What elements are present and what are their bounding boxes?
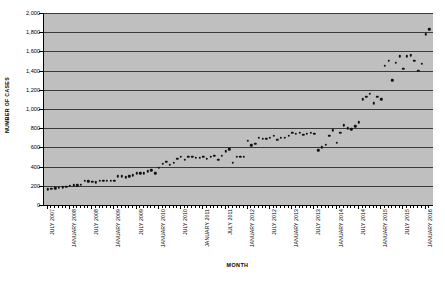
x-axis-tickmark	[406, 205, 407, 208]
x-axis-tick-label: JANUARY 2009	[115, 209, 121, 247]
data-point	[128, 175, 130, 177]
data-point	[324, 143, 326, 145]
data-point	[243, 156, 245, 158]
y-axis-tick-label: 1,800	[12, 29, 40, 35]
x-axis-tickmark	[228, 205, 229, 208]
x-axis-tickmark	[295, 205, 296, 208]
x-axis-tickmark	[165, 205, 166, 208]
data-point	[335, 141, 337, 143]
x-axis-tick-label: JANUARY 2010	[160, 209, 166, 247]
data-point	[250, 144, 252, 146]
data-point	[172, 162, 174, 164]
data-point	[332, 129, 334, 131]
data-point	[210, 156, 212, 158]
y-axis-tickmark	[39, 147, 43, 148]
x-axis-tick-label: JULY 2008	[93, 209, 99, 235]
x-axis-tickmark	[395, 205, 396, 208]
x-axis-tickmark	[102, 205, 103, 208]
x-axis-tickmark	[143, 205, 144, 208]
x-axis-tickmark	[217, 205, 218, 208]
x-axis-tickmark	[191, 205, 192, 208]
x-axis-tickmark	[258, 205, 259, 208]
data-point	[58, 187, 60, 189]
data-point	[102, 180, 104, 182]
x-axis-tickmark	[343, 205, 344, 208]
y-axis-tickmark	[39, 128, 43, 129]
x-axis-tickmark	[117, 205, 118, 208]
data-point	[384, 65, 386, 67]
data-point	[272, 135, 274, 137]
x-axis-tickmark	[384, 205, 385, 208]
data-point	[265, 138, 267, 140]
x-axis-tickmark	[273, 205, 274, 208]
data-point	[313, 133, 315, 135]
data-point	[258, 137, 260, 139]
x-axis-tickmark	[95, 205, 96, 208]
gridline	[44, 13, 433, 14]
data-point	[180, 156, 182, 158]
data-point	[169, 163, 171, 165]
data-point	[298, 132, 300, 134]
data-point	[361, 98, 363, 100]
x-axis-tick-label: JULY 2010	[182, 209, 188, 235]
x-axis-tickmark	[184, 205, 185, 208]
gridline	[44, 167, 433, 168]
data-point	[254, 142, 256, 144]
data-point	[143, 172, 145, 174]
x-axis-tickmark	[413, 205, 414, 208]
x-axis-tickmark	[265, 205, 266, 208]
x-axis-tickmark	[347, 205, 348, 208]
data-point	[217, 159, 219, 161]
x-axis-tickmark	[73, 205, 74, 208]
x-axis-tickmark	[321, 205, 322, 208]
x-axis-tickmark	[365, 205, 366, 208]
data-point	[247, 139, 249, 141]
data-point	[276, 139, 278, 141]
x-axis-tick-label: JULY 2009	[138, 209, 144, 235]
x-axis-tick-label: JANUARY 2012	[249, 209, 255, 247]
data-point	[395, 62, 397, 64]
data-point	[280, 137, 282, 139]
x-axis-tickmark	[284, 205, 285, 208]
gridline	[44, 109, 433, 110]
y-axis-tickmark	[39, 13, 43, 14]
x-axis-tick-label: JULY 2007	[49, 209, 55, 235]
x-axis-tickmark	[206, 205, 207, 208]
data-point	[402, 67, 404, 69]
data-point	[117, 175, 119, 177]
data-point	[295, 133, 297, 135]
gridline	[44, 32, 433, 33]
data-point	[343, 124, 345, 126]
data-point	[380, 98, 382, 100]
data-point	[228, 148, 230, 150]
x-axis-tickmark	[325, 205, 326, 208]
x-axis-tick-label: JANUARY 2015	[382, 209, 388, 247]
x-axis-tickmark	[58, 205, 59, 208]
data-point	[291, 132, 293, 134]
y-axis-tick-label: 0	[12, 202, 40, 208]
x-axis-tickmark	[388, 205, 389, 208]
data-point	[365, 95, 367, 97]
x-axis-tickmark	[221, 205, 222, 208]
data-point	[184, 159, 186, 161]
x-axis-tickmark	[54, 205, 55, 208]
data-point	[358, 121, 360, 123]
gridline	[44, 51, 433, 52]
data-point	[139, 172, 141, 174]
x-axis-tick-label: JULY 2015	[404, 209, 410, 235]
data-point	[413, 60, 415, 62]
x-axis-tick-label: JANUARY 2008	[71, 209, 77, 247]
x-axis-tickmark	[199, 205, 200, 208]
data-point	[54, 187, 56, 189]
x-axis-tickmark	[50, 205, 51, 208]
data-point	[154, 172, 156, 174]
x-axis-tickmark	[128, 205, 129, 208]
x-axis-tickmark	[210, 205, 211, 208]
x-axis-tickmark	[399, 205, 400, 208]
x-axis-tickmark	[239, 205, 240, 208]
x-axis-tickmark	[317, 205, 318, 208]
y-axis-tick-label: 1,000	[12, 106, 40, 112]
data-point	[165, 161, 167, 163]
data-point	[84, 180, 86, 182]
x-axis-tickmark	[302, 205, 303, 208]
